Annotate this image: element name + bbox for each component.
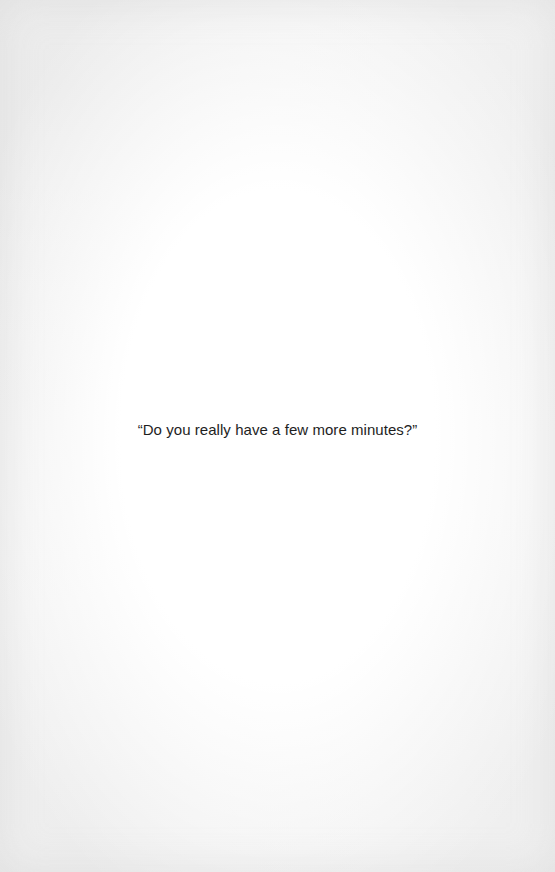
- dialogue-line: “Do you really have a few more minutes?”: [0, 421, 555, 439]
- book-page: “Do you really have a few more minutes?”: [0, 0, 555, 872]
